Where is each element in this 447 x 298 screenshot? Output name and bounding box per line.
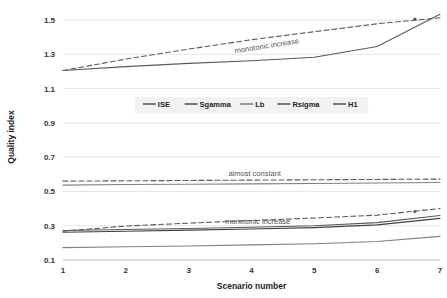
series-line-lb <box>63 183 440 186</box>
series-line-lower-solid-bottom <box>63 236 440 247</box>
data-point-marker <box>413 18 416 21</box>
y-tick-label: 0.5 <box>44 187 56 196</box>
chart-canvas: 0.10.30.50.70.91.11.31.51234567monotonic… <box>0 0 447 298</box>
y-tick-label: 1.5 <box>44 16 56 25</box>
chart-annotation: monotonic increase <box>234 36 300 55</box>
x-axis-title: Scenario number <box>217 281 287 291</box>
y-tick-label: 1.1 <box>44 85 56 94</box>
y-tick-label: 0.9 <box>44 119 56 128</box>
legend-label-sgamma: Sgamma <box>200 100 232 109</box>
series-line-rsigma <box>63 179 440 181</box>
y-tick-label: 0.7 <box>44 153 56 162</box>
x-tick-labels: 1234567 <box>61 266 443 275</box>
x-tick-label: 2 <box>124 266 129 275</box>
quality-index-line-chart: 0.10.30.50.70.91.11.31.51234567monotonic… <box>0 0 447 298</box>
x-tick-label: 3 <box>186 266 191 275</box>
x-tick-label: 6 <box>375 266 380 275</box>
y-tick-label: 1.3 <box>44 50 56 59</box>
y-tick-label: 0.3 <box>44 222 56 231</box>
x-tick-label: 1 <box>61 266 66 275</box>
y-tick-label: 0.1 <box>44 256 56 265</box>
legend-label-lb: Lb <box>255 100 265 109</box>
y-axis-title: Quality index <box>6 110 16 164</box>
legend-label-rsigma: Rsigma <box>292 100 320 109</box>
chart-annotation: monotonic increase <box>225 217 290 226</box>
legend-label-ise: ISE <box>158 100 170 109</box>
x-tick-label: 4 <box>249 266 254 275</box>
x-tick-label: 7 <box>438 266 443 275</box>
chart-annotation: almost constant <box>228 169 281 178</box>
chart-legend: ISESgammaLbRsigmaH1 <box>135 97 368 114</box>
x-tick-label: 5 <box>312 266 317 275</box>
data-point-marker <box>413 210 416 213</box>
legend-label-h1: H1 <box>348 100 358 109</box>
